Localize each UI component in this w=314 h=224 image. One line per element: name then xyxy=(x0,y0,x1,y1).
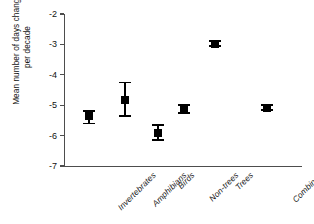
error-bar-cap-lower xyxy=(152,139,164,141)
x-axis-label-combined: Combined xyxy=(291,170,314,204)
error-bar-cap-lower xyxy=(83,123,95,125)
error-bar-cap-upper xyxy=(83,110,95,112)
y-axis-title-line2: per decade xyxy=(22,26,33,68)
y-axis-tick: -5 xyxy=(60,105,64,106)
y-axis-line xyxy=(64,14,65,166)
x-axis-line xyxy=(64,166,302,167)
y-axis-tick-label: -2 xyxy=(49,9,57,19)
y-axis-tick-label: -3 xyxy=(49,39,57,49)
y-axis-tick: -3 xyxy=(60,44,64,45)
marker-square xyxy=(121,96,129,104)
chart-figure: Mean number of days changed per decade -… xyxy=(0,0,314,224)
y-axis-tick: -4 xyxy=(60,74,64,75)
marker-square xyxy=(180,105,188,113)
marker-square xyxy=(263,104,271,112)
error-bar-cap-upper xyxy=(152,124,164,126)
y-axis-title-line1: Mean number of days changed xyxy=(11,0,22,105)
marker-square xyxy=(211,40,219,48)
y-axis-tick-label: -6 xyxy=(49,131,57,141)
error-bar-cap-lower xyxy=(119,115,131,117)
y-axis-tick: -6 xyxy=(60,135,64,136)
y-axis-tick: -2 xyxy=(60,13,64,14)
y-axis-tick-label: -5 xyxy=(49,100,57,110)
error-bar-cap-upper xyxy=(119,82,131,84)
y-axis-tick-label: -4 xyxy=(49,70,57,80)
x-axis-labels: InvertebratesAmphibiansBirdsNon-treesTre… xyxy=(64,170,302,224)
x-axis-label-invertebrates: Invertebrates xyxy=(116,170,158,212)
plot-area: -2-3-4-5-6-7 xyxy=(64,14,302,166)
y-axis-tick-label: -7 xyxy=(49,161,57,171)
y-axis-tick: -7 xyxy=(60,165,64,166)
y-axis-title: Mean number of days changed per decade xyxy=(7,0,37,127)
marker-square xyxy=(85,112,93,120)
marker-square xyxy=(154,129,162,137)
